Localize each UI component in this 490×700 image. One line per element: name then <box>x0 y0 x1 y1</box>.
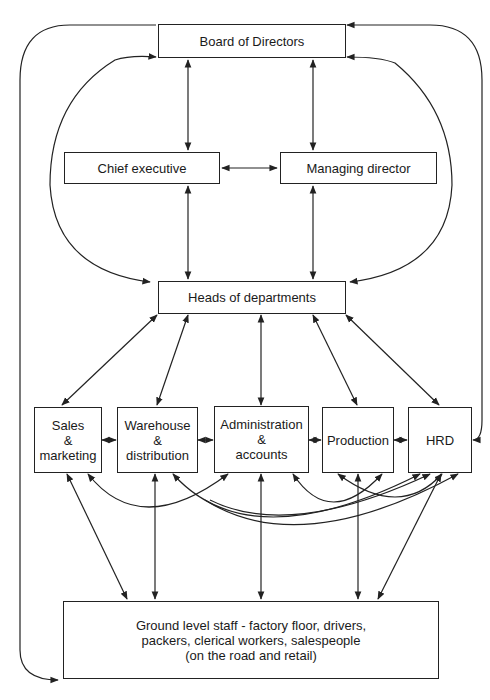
edge-sales-ground <box>67 474 127 599</box>
node-board-label: Board of Directors <box>200 34 305 49</box>
node-warehouse-line1: Warehouse <box>125 418 191 433</box>
outer-loop-left <box>20 25 156 680</box>
node-admin-line1: Administration <box>220 417 302 432</box>
node-chief-executive-label: Chief executive <box>98 161 187 176</box>
node-production-label: Production <box>327 433 389 448</box>
node-ground-line2: packers, clerical workers, salespeople <box>142 633 361 648</box>
curve-admin-production <box>293 474 382 502</box>
node-warehouse-line3: distribution <box>126 448 189 463</box>
node-administration-accounts: Administration & accounts <box>214 406 309 473</box>
curve-sales-admin <box>88 474 228 507</box>
edge-heads-hrd <box>346 315 439 405</box>
node-hrd: HRD <box>408 407 472 473</box>
curve-sales-hrd <box>210 474 430 515</box>
node-sales-line2: & <box>64 433 73 448</box>
node-heads-of-departments: Heads of departments <box>158 281 346 314</box>
node-warehouse-distribution: Warehouse & distribution <box>117 407 198 473</box>
node-production: Production <box>322 407 394 473</box>
node-ground-level-staff: Ground level staff - factory floor, driv… <box>63 601 439 679</box>
edge-heads-sales <box>62 315 157 405</box>
node-heads-label: Heads of departments <box>188 290 316 305</box>
node-managing-director: Managing director <box>280 152 437 184</box>
connector-layer <box>0 0 490 700</box>
edge-heads-production <box>313 315 357 405</box>
outer-loop-right <box>347 25 482 440</box>
node-ground-line1: Ground level staff - factory floor, driv… <box>136 618 366 633</box>
node-admin-line2: & <box>257 432 266 447</box>
curve-warehouse-hrd-2 <box>205 474 458 525</box>
curve-production-hrd <box>338 474 442 497</box>
node-board: Board of Directors <box>158 24 346 58</box>
edge-heads-warehouse <box>157 315 188 405</box>
node-warehouse-line2: & <box>153 433 162 448</box>
node-ground-line3: (on the road and retail) <box>185 648 317 663</box>
node-managing-director-label: Managing director <box>306 161 410 176</box>
node-chief-executive: Chief executive <box>64 152 220 184</box>
node-sales-marketing: Sales & marketing <box>34 407 102 473</box>
node-hrd-label: HRD <box>426 433 454 448</box>
node-sales-line1: Sales <box>52 418 85 433</box>
node-admin-line3: accounts <box>235 447 287 462</box>
node-sales-line3: marketing <box>39 448 96 463</box>
